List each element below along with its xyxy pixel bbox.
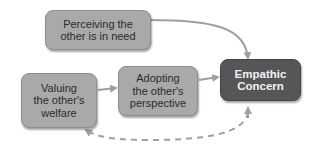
node-empathic-concern: Empathic Concern xyxy=(220,59,301,101)
node-empathic-line1: Empathic xyxy=(235,68,287,80)
node-empathic-line2: Concern xyxy=(237,80,284,92)
node-adopting: Adopting the other's perspective xyxy=(118,66,198,116)
dashed-arrow-empathic-valuing xyxy=(86,112,248,140)
node-perceiving-line1: Perceiving the xyxy=(63,18,133,30)
arrow-valuing-to-adopting xyxy=(98,88,116,90)
node-valuing-line1: Valuing xyxy=(41,82,77,94)
node-valuing: Valuing the other's welfare xyxy=(21,73,97,128)
node-perceiving: Perceiving the other is in need xyxy=(45,10,151,50)
node-valuing-line3: welfare xyxy=(41,107,76,119)
arrow-adopting-to-empathic xyxy=(199,77,218,80)
node-adopting-line3: perspective xyxy=(130,97,186,109)
node-adopting-line1: Adopting xyxy=(136,72,179,84)
arrow-perceiving-to-empathic xyxy=(150,20,248,58)
node-perceiving-line2: other is in need xyxy=(60,30,135,42)
node-valuing-line2: the other's xyxy=(33,94,84,106)
node-adopting-line2: the other's xyxy=(132,85,183,97)
